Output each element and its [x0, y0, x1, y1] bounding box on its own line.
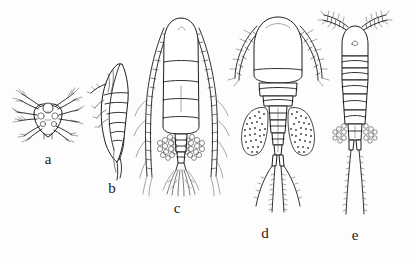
- figure-e-egg-sac-right: [364, 124, 378, 144]
- figure-e-adult-female-dorsal: [318, 11, 392, 214]
- figure-d-egg-sac-right: [288, 107, 314, 155]
- figure-e-antennule-left: [318, 11, 348, 31]
- figure-label-d: d: [255, 226, 275, 241]
- figure-e-caudal-setae: [343, 140, 367, 214]
- figure-e-egg-sac-left: [333, 124, 347, 144]
- figure-c-adult-female-dorsal: [134, 18, 229, 196]
- figure-d-egg-sac-left: [242, 107, 268, 155]
- figure-label-b: b: [102, 181, 122, 196]
- figure-a-nauplius: [12, 88, 84, 142]
- figure-d-caudal-setae: [254, 155, 302, 212]
- figure-label-a: a: [38, 152, 58, 167]
- figure-c-caudal-setae: [163, 163, 199, 196]
- illustration-plate: a b c d e: [0, 0, 409, 257]
- figure-e-antennule-right: [362, 11, 392, 31]
- plate-canvas: [0, 0, 409, 257]
- figure-c-egg-sac-left: [157, 134, 177, 160]
- figure-c-egg-sac-right: [185, 134, 205, 160]
- figure-d-adult-female-dorsal: [228, 17, 329, 212]
- figure-label-e: e: [345, 228, 365, 243]
- figure-b-copepodite-lateral: [87, 64, 128, 180]
- figure-label-c: c: [167, 201, 187, 216]
